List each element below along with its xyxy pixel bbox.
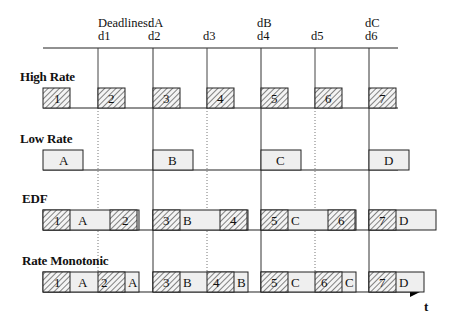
high-job-2: 2 — [108, 92, 115, 105]
edf-slot-B: B — [183, 214, 192, 227]
rm-slot-5: 5 — [271, 276, 278, 289]
time-axis-label: t — [424, 300, 428, 313]
edf-row — [43, 210, 436, 230]
deadline-d3: d3 — [203, 30, 216, 43]
rm-slot-D: D — [399, 276, 408, 289]
high-job-6: 6 — [325, 92, 332, 105]
high-job-1: 1 — [54, 92, 61, 105]
edf-slot-2: 2 — [122, 214, 129, 227]
rm-slot-6: 6 — [321, 276, 328, 289]
edf-slot-5: 5 — [271, 214, 278, 227]
deadline-d5: d5 — [311, 30, 324, 43]
edf-slot-7: 7 — [379, 214, 386, 227]
low-job-D: D — [384, 154, 393, 167]
edf-slot-3: 3 — [163, 214, 170, 227]
deadline-d1: d1 — [98, 30, 111, 43]
rm-slot-4: 4 — [213, 276, 220, 289]
deadline-d2: d2 — [148, 30, 161, 43]
high-job-3: 3 — [163, 92, 170, 105]
rm-slot-A2: A — [128, 276, 137, 289]
rm-slot-C: C — [291, 276, 300, 289]
high-job-5: 5 — [271, 92, 278, 105]
rm-slot-3: 3 — [163, 276, 170, 289]
row-label-high-rate: High Rate — [20, 70, 75, 83]
low-job-C: C — [276, 154, 285, 167]
rm-slot-B: B — [183, 276, 192, 289]
row-label-low-rate: Low Rate — [20, 132, 72, 145]
low-job-B: B — [168, 154, 177, 167]
edf-slot-C: C — [291, 214, 300, 227]
deadline-d6: d6 — [365, 30, 378, 43]
low-job-A: A — [59, 154, 68, 167]
row-label-edf: EDF — [22, 192, 47, 205]
edf-slot-4: 4 — [230, 214, 237, 227]
rm-slot-A: A — [78, 276, 87, 289]
high-job-7: 7 — [379, 92, 386, 105]
row-label-rate-monotonic: Rate Monotonic — [22, 254, 108, 267]
edf-slot-D: D — [399, 214, 408, 227]
rm-slot-B2: B — [237, 276, 246, 289]
rm-slot-2: 2 — [101, 276, 108, 289]
minor-deadline-dotted-lines — [98, 108, 315, 292]
deadline-d4: d4 — [257, 30, 270, 43]
rm-slot-7: 7 — [379, 276, 386, 289]
edf-slot-6: 6 — [338, 214, 345, 227]
edf-slot-A: A — [78, 214, 87, 227]
edf-slot-1: 1 — [54, 214, 61, 227]
high-job-4: 4 — [217, 92, 224, 105]
rm-slot-C2: C — [345, 276, 354, 289]
rm-slot-1: 1 — [54, 276, 61, 289]
